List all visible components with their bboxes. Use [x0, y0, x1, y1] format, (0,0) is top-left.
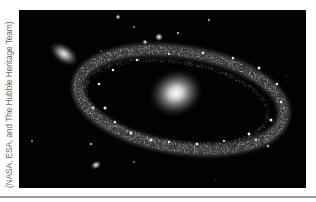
star [31, 140, 34, 143]
ring-galaxy-core [141, 61, 210, 125]
star [155, 33, 164, 42]
star [207, 18, 211, 22]
star [100, 50, 102, 52]
star [142, 39, 148, 45]
ring-galaxy [71, 36, 291, 163]
star [115, 14, 121, 20]
bottom-divider [0, 196, 316, 198]
small-galaxy [89, 158, 104, 171]
star [285, 75, 287, 77]
star [176, 31, 180, 35]
companion-galaxy [44, 36, 83, 72]
star [133, 161, 136, 164]
star [214, 179, 216, 181]
star [89, 142, 93, 146]
galaxy-image-canvas [19, 10, 306, 188]
photo-credit: (NASA, ESA, and The Hubble Heritage Team… [1, 10, 17, 188]
galaxy-photograph [19, 10, 306, 188]
star [266, 144, 270, 148]
star [90, 105, 96, 111]
star [254, 138, 259, 143]
star [133, 26, 136, 29]
